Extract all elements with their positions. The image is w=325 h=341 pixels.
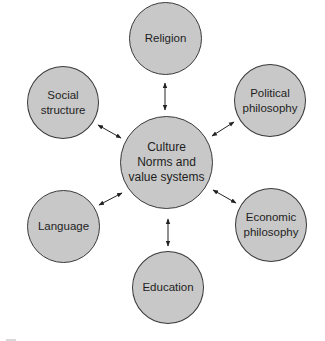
node-label-line-2: philosophy bbox=[243, 101, 298, 116]
node-label-line-2: philosophy bbox=[244, 225, 299, 240]
node-language: Language bbox=[27, 190, 100, 263]
central-label-line-3: value systems bbox=[128, 170, 204, 185]
node-label: Education bbox=[142, 280, 193, 295]
node-social-structure: Social structure bbox=[27, 66, 99, 139]
node-religion: Religion bbox=[129, 2, 202, 75]
node-label-line-1: Economic bbox=[244, 210, 299, 225]
central-label-line-2: Norms and bbox=[128, 155, 204, 170]
node-education: Education bbox=[132, 251, 204, 324]
arrow-culture-social-structure bbox=[98, 125, 121, 138]
arrow-culture-economic-philosophy bbox=[213, 190, 236, 203]
node-political-philosophy: Political philosophy bbox=[234, 64, 306, 137]
node-economic-philosophy: Economic philosophy bbox=[235, 188, 307, 262]
arrow-culture-political-philosophy bbox=[212, 122, 234, 136]
node-label-line-1: Political bbox=[243, 86, 298, 101]
node-label-line-1: Social bbox=[41, 88, 86, 103]
node-label-line-2: structure bbox=[41, 103, 86, 118]
node-label: Language bbox=[38, 219, 89, 234]
arrow-culture-language bbox=[99, 193, 122, 205]
central-label-line-1: Culture bbox=[128, 140, 204, 155]
node-culture-central: Culture Norms and value systems bbox=[120, 116, 213, 209]
node-label: Religion bbox=[145, 31, 187, 46]
